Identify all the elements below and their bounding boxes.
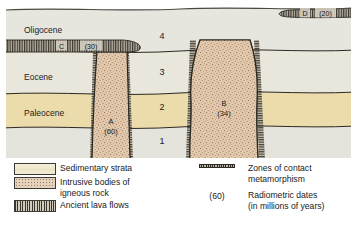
intrusive-body-a-outline	[92, 52, 130, 160]
legend-item-lava: Ancient lava flows	[14, 200, 184, 212]
legend-label-lava: Ancient lava flows	[60, 200, 129, 211]
layer-number-1: 1	[159, 136, 164, 146]
radiometric-key-cell: (60)	[186, 190, 248, 201]
lava-flow-swatch	[14, 200, 56, 212]
legend-label-radiometric: Radiometric dates (in millions of years)	[248, 190, 324, 211]
era-label-eocene: Eocene	[24, 72, 53, 82]
radiometric-date-key: (60)	[209, 191, 224, 201]
legend-column-left: Sedimentary strata Intrusive bodies of i…	[14, 163, 184, 214]
legend-item-sedimentary: Sedimentary strata	[14, 163, 184, 175]
legend-label-igneous: Intrusive bodies of igneous rock	[60, 177, 130, 198]
strata-unit-3	[0, 50, 357, 95]
legend-label-sedimentary: Sedimentary strata	[60, 163, 132, 174]
legend-label-radiometric-sub: (in millions of years)	[248, 201, 324, 212]
intrusion-a-date: (60)	[104, 127, 118, 136]
era-label-paleocene: Paleocene	[24, 108, 64, 118]
lava-flow-d-date: (20)	[319, 10, 331, 18]
igneous-rock-swatch-cell	[14, 177, 60, 189]
geologic-cross-section: Oligocene Eocene Paleocene 4 3 2 1 A (60…	[0, 0, 357, 160]
layer-number-2: 2	[159, 102, 164, 112]
intrusion-b-date: (34)	[217, 109, 231, 118]
strata-unit-1	[0, 126, 357, 160]
legend-label-contact-zone: Zones of contact metamorphism	[248, 163, 357, 184]
intrusion-a-id: A	[108, 117, 113, 126]
contact-zone-line-icon	[199, 164, 235, 168]
legend-label-contact-zone-main: Zones of contact metamorphism	[248, 163, 312, 184]
lava-flow-c-date: (30)	[85, 43, 97, 51]
legend-label-igneous-main: Intrusive bodies of	[60, 177, 130, 187]
legend-item-igneous: Intrusive bodies of igneous rock	[14, 177, 184, 198]
legend-label-sedimentary-main: Sedimentary strata	[60, 163, 132, 173]
strata-stack	[0, 0, 357, 160]
igneous-rock-swatch	[14, 177, 56, 189]
legend: Sedimentary strata Intrusive bodies of i…	[0, 160, 357, 233]
legend-item-radiometric: (60) Radiometric dates (in millions of y…	[186, 190, 357, 211]
lava-flow-d-id: D	[302, 10, 307, 17]
contact-zone-key-cell	[186, 163, 248, 168]
legend-label-radiometric-main: Radiometric dates	[248, 190, 317, 200]
intrusion-b-id: B	[221, 99, 226, 108]
layer-number-3: 3	[159, 67, 164, 77]
legend-item-contact-zone: Zones of contact metamorphism	[186, 163, 357, 184]
layer-number-4: 4	[159, 31, 164, 41]
sedimentary-strata-swatch-cell	[14, 163, 60, 175]
legend-column-right: Zones of contact metamorphism (60) Radio…	[186, 163, 357, 213]
legend-label-lava-main: Ancient lava flows	[60, 200, 129, 210]
lava-flow-c-id: C	[59, 43, 64, 50]
sedimentary-strata-swatch	[14, 163, 56, 175]
era-label-oligocene: Oligocene	[24, 25, 63, 35]
figure-root: Oligocene Eocene Paleocene 4 3 2 1 A (60…	[0, 0, 357, 233]
legend-label-igneous-sub: igneous rock	[60, 188, 130, 199]
lava-flow-c	[4, 40, 140, 52]
lava-flow-swatch-cell	[14, 200, 60, 212]
